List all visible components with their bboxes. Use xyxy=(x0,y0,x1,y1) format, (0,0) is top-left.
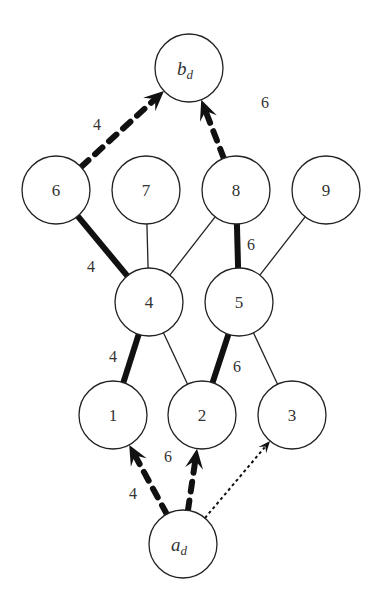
node-2: 2 xyxy=(168,381,236,449)
node-ad: ad xyxy=(149,510,217,578)
edge-ad-1 xyxy=(129,445,167,514)
node-4: 4 xyxy=(115,268,183,336)
edge-ad-3 xyxy=(205,441,270,518)
node-label: 8 xyxy=(232,181,241,200)
edge-weight-label: 4 xyxy=(109,348,117,365)
node-5: 5 xyxy=(205,268,273,336)
edge-7-4 xyxy=(147,224,148,268)
edge-weight-label: 4 xyxy=(87,258,95,275)
graph-diagram: bd678945123ad 46464646 xyxy=(0,0,378,601)
node-8: 8 xyxy=(202,156,270,224)
node-label: 2 xyxy=(198,406,207,425)
edge-weight-label: 6 xyxy=(247,236,255,253)
edge-5-2 xyxy=(213,334,229,382)
edge-4-1 xyxy=(123,334,138,382)
node-label: 7 xyxy=(142,181,151,200)
node-7: 7 xyxy=(112,156,180,224)
edge-5-3 xyxy=(253,333,277,384)
edge-8-5 xyxy=(237,224,238,268)
edge-weight-label: 6 xyxy=(261,94,269,111)
edge-weight-label: 6 xyxy=(233,358,241,375)
node-3: 3 xyxy=(258,381,326,449)
node-6: 6 xyxy=(22,156,90,224)
edge-8-4 xyxy=(170,217,215,275)
edge-4-2 xyxy=(163,333,187,384)
edge-9-5 xyxy=(260,217,305,275)
node-label: 5 xyxy=(235,293,244,312)
nodes-layer: bd678945123ad xyxy=(22,34,360,578)
edge-weight-label: 4 xyxy=(93,116,101,133)
edge-6-4 xyxy=(78,216,128,276)
node-label: 1 xyxy=(109,406,118,425)
edge-8-bd xyxy=(200,100,224,159)
node-9: 9 xyxy=(292,156,360,224)
edge-weight-label: 4 xyxy=(129,485,137,502)
node-label: 6 xyxy=(52,181,61,200)
edge-weight-label: 6 xyxy=(164,448,172,465)
edge-ad-2 xyxy=(185,449,203,511)
node-1: 1 xyxy=(79,381,147,449)
node-bd: bd xyxy=(155,34,223,102)
node-label: 3 xyxy=(288,406,297,425)
node-label: 4 xyxy=(145,293,154,312)
node-label: 9 xyxy=(322,181,331,200)
